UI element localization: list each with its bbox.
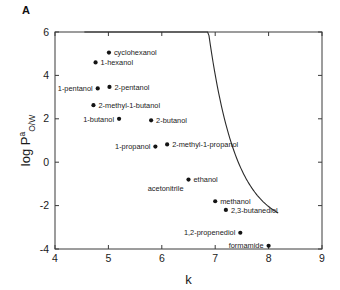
data-point [117,117,121,121]
y-tick-label: 6 [43,26,49,38]
data-point [213,199,217,203]
point-label: formamide [229,241,264,250]
data-point [93,60,97,64]
point-label: 2-butanol [156,116,187,125]
x-tick-label: 7 [212,252,218,264]
point-label: 2,3-butanediol [231,206,278,215]
data-point [91,103,95,107]
svg-text:log PaO/W: log PaO/W [17,115,37,166]
y-tick-label: -4 [40,243,49,255]
x-tick-label: 4 [52,252,58,264]
y-tick-label: 2 [43,112,49,124]
y-tick-label: 4 [43,69,49,81]
data-point [107,51,111,55]
data-point [165,142,169,146]
data-point [153,144,157,148]
point-label: 1-pentanol [58,84,93,93]
x-tick-label: 5 [105,252,111,264]
data-point [149,118,153,122]
point-label: 2-methyl-1-butanol [98,101,160,110]
point-label: 1-butanol [83,115,114,124]
data-point [267,244,271,248]
x-tick-label: 8 [266,252,272,264]
y-tick-label: -2 [40,199,49,211]
x-tick-label: 6 [159,252,165,264]
scatter-plot: 4567896420-2-4 cyclohexanol1-hexanol1-pe… [0,0,340,290]
y-tick-label: 0 [43,156,49,168]
data-points: cyclohexanol1-hexanol1-pentanol2-pentano… [58,48,278,250]
data-point [238,231,242,235]
point-label: ethanol [194,175,219,184]
point-label: acetonitrile [148,184,184,193]
point-label: 1,2-propenediol [184,228,236,237]
x-tick-label: 9 [319,252,325,264]
point-label: 1-hexanol [101,58,134,67]
point-label: 2-methyl-1-propanol [172,140,238,149]
data-point [186,177,190,181]
y-axis-title: log PaO/W [17,115,37,166]
point-label: 1-propanol [115,142,151,151]
data-point [96,86,100,90]
data-point [107,85,111,89]
figure-panel-a: A 4567896420-2-4 cyclohexanol1-hexanol1-… [0,0,340,290]
point-label: 2-pentanol [114,83,149,92]
x-axis-title: k [185,272,192,287]
point-label: cyclohexanol [114,48,157,57]
point-label: methanol [220,197,251,206]
data-point [224,208,228,212]
